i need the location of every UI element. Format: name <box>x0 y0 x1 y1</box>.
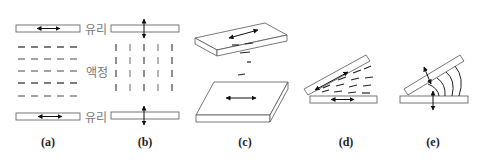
label-glass-bottom: 유리 <box>85 111 107 125</box>
panel-e <box>400 55 468 110</box>
panel-b <box>111 19 179 125</box>
panel-a <box>16 25 80 120</box>
label-glass-top: 유리 <box>85 23 107 37</box>
label-liquid-crystal: 액정 <box>86 66 108 80</box>
lc-alignment-diagram: 유리 액정 유리 <box>0 0 483 162</box>
caption-d: (d) <box>339 135 354 149</box>
panel-d <box>304 55 377 103</box>
panel-c <box>195 23 288 122</box>
caption-e: (e) <box>426 135 439 149</box>
lc-molecules-horizontal <box>18 47 77 96</box>
glass-tilted-plate <box>304 55 370 95</box>
caption-c: (c) <box>238 135 251 149</box>
glass-bottom-plate <box>400 96 468 103</box>
glass-tilted-plate <box>404 55 464 95</box>
lc-molecules-vertical <box>116 44 172 91</box>
glass-bottom-plate <box>111 112 179 119</box>
caption-b: (b) <box>138 135 153 149</box>
glass-top-plate <box>111 25 179 32</box>
caption-a: (a) <box>41 135 55 149</box>
